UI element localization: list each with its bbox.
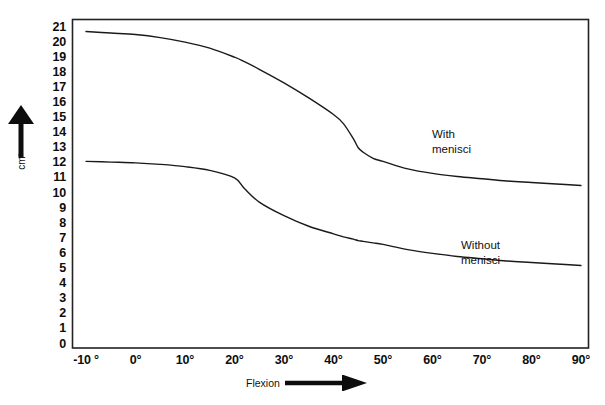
- series-annotation-without-menisci: Without menisci: [461, 238, 500, 267]
- x-tick-label: 40°: [324, 354, 342, 367]
- x-tick-label: 20°: [225, 354, 243, 367]
- y-axis-title-block: cm²: [4, 104, 38, 204]
- x-tick-label: 30°: [275, 354, 293, 367]
- x-tick-label: 60°: [423, 354, 441, 367]
- series-annotation-with-menisci: With menisci: [432, 127, 471, 156]
- x-tick-label: 50°: [374, 354, 392, 367]
- x-tick-label: 90°: [572, 354, 590, 367]
- x-tick-label: 10°: [176, 354, 194, 367]
- x-tick-label: 80°: [522, 354, 540, 367]
- x-axis-title: Flexion: [246, 377, 280, 389]
- x-tick-label: 0°: [130, 354, 142, 367]
- x-axis-ticklabels: -10 °0°10°20°30°40°50°60°70°80°90°: [0, 0, 605, 405]
- y-axis-title: cm²: [16, 147, 27, 177]
- right-arrow-icon: [284, 375, 368, 391]
- x-axis-title-block: Flexion: [246, 374, 368, 392]
- x-tick-label: -10 °: [73, 354, 99, 367]
- x-tick-label: 70°: [473, 354, 491, 367]
- chart-figure: 2120191817161514131211109876543210 -10 °…: [0, 0, 605, 405]
